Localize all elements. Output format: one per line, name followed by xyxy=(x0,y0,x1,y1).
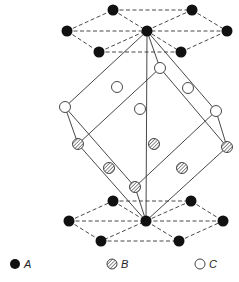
atom-a xyxy=(108,5,119,16)
atom-a xyxy=(186,196,197,207)
atom-a xyxy=(64,216,75,227)
legend-item-b: B xyxy=(107,258,128,270)
atom-a xyxy=(222,26,233,37)
atom-a xyxy=(141,216,152,227)
atom-a xyxy=(218,216,229,227)
atom-c xyxy=(112,82,123,93)
legend-b-icon xyxy=(107,259,117,269)
atom-a xyxy=(176,47,187,58)
legend-a-label: A xyxy=(23,258,31,270)
atom-c xyxy=(60,102,71,113)
legend-item-a: A xyxy=(10,258,31,270)
atom-b xyxy=(130,182,141,193)
atom-a xyxy=(94,47,105,58)
atom-b xyxy=(149,139,160,150)
atom-b xyxy=(73,139,84,150)
legend-c-label: C xyxy=(209,258,217,270)
atom-a xyxy=(62,26,73,37)
atom-c xyxy=(183,83,194,94)
atom-c xyxy=(155,63,166,74)
legend: A B C xyxy=(10,258,217,270)
atom-b xyxy=(177,163,188,174)
unit-cell-edges xyxy=(65,31,227,221)
atom-a xyxy=(96,236,107,247)
atom-a xyxy=(142,26,153,37)
atom-b xyxy=(104,163,115,174)
legend-b-label: B xyxy=(121,258,128,270)
atom-a xyxy=(187,5,198,16)
atom-a xyxy=(174,236,185,247)
atom-a xyxy=(108,196,119,207)
atom-b xyxy=(222,142,233,153)
atom-c xyxy=(135,104,146,115)
legend-item-c: C xyxy=(195,258,217,270)
crystal-structure-diagram: A B C xyxy=(0,0,239,282)
atom-c xyxy=(211,106,222,117)
legend-a-icon xyxy=(10,259,20,269)
legend-c-icon xyxy=(195,259,205,269)
